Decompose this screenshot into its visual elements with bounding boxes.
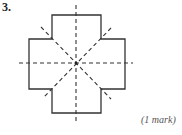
center-point <box>75 62 78 65</box>
mark-allocation: (1 mark) <box>141 114 176 125</box>
